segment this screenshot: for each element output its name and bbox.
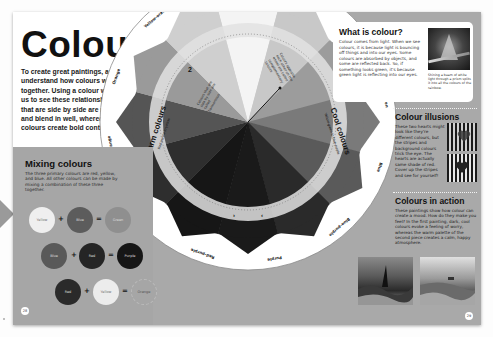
plus-sign: +: [58, 215, 64, 223]
orange-blob: Orange: [131, 279, 157, 305]
striped-heart-illusion-top: [447, 123, 477, 151]
green-blob: Green: [105, 207, 131, 233]
red-blob: Red: [79, 243, 105, 269]
yellow-blob: Yellow: [29, 207, 55, 233]
plus-sign: +: [84, 287, 90, 295]
prism-photo: [428, 28, 470, 70]
blue-blob: Blue: [41, 243, 67, 269]
yellow-blob: Yellow: [93, 279, 119, 305]
what-is-colour-heading: What is colour?: [339, 27, 403, 37]
stormy-sea-painting: [358, 257, 413, 305]
heart-icon: [455, 161, 469, 174]
action-text: These paintings show how colour can crea…: [395, 208, 477, 246]
mixing-heading: Mixing colours: [25, 158, 92, 169]
illusions-heading: Colour illusions: [395, 112, 459, 122]
action-heading: Colours in action: [395, 196, 464, 206]
divider: [393, 192, 477, 193]
blue-blob: Blue: [67, 207, 93, 233]
what-is-colour-panel: What is colour? Colour comes from light.…: [333, 22, 473, 102]
mixing-colours-panel: Mixing colours The three primary colours…: [13, 147, 153, 325]
page-number-left: 28: [21, 307, 29, 315]
heart-icon: [457, 130, 471, 143]
striped-heart-illusion-bottom: [447, 154, 477, 182]
mixing-text: The three primary colours are red, yello…: [25, 171, 123, 193]
page-number-right: 29: [465, 312, 473, 320]
ring-number: 2: [188, 66, 192, 73]
equals-sign: =: [96, 215, 102, 223]
divider: [393, 108, 477, 109]
page-turn-arrow[interactable]: [0, 200, 14, 228]
what-is-colour-text: Colour comes from light. When we see col…: [339, 39, 421, 78]
prism-caption: Shining a beam of white light through a …: [428, 73, 472, 90]
book-spread: Colour To create great paintings, artist…: [13, 12, 481, 325]
illusions-text: These two hearts might look like they're…: [395, 124, 445, 178]
calm-sea-painting: [420, 257, 475, 305]
plus-sign: +: [71, 251, 77, 259]
arrow-right-icon: ›: [233, 212, 235, 218]
purple-blob: Purple: [117, 243, 143, 269]
equals-sign: =: [122, 287, 128, 295]
red-blob: Red: [55, 279, 81, 305]
arrow-left-icon: ‹: [261, 212, 263, 218]
page-marker: [3, 318, 5, 320]
equals-sign: =: [108, 251, 114, 259]
